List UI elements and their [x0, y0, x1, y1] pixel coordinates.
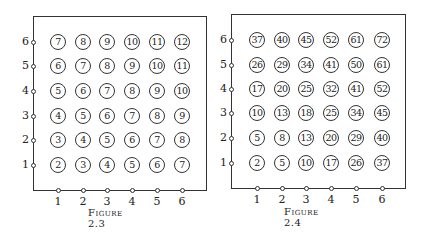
circled-value: 5	[249, 130, 265, 146]
circled-value: 41	[348, 81, 364, 97]
x-axis-pin	[255, 186, 260, 191]
circled-value: 32	[323, 81, 339, 97]
circled-value: 5	[50, 83, 66, 99]
y-tick-label: 3	[22, 110, 29, 121]
circled-value: 5	[274, 155, 290, 171]
circled-value: 20	[323, 130, 339, 146]
y-axis-pin	[31, 114, 36, 119]
x-tick-label: 5	[154, 196, 161, 207]
y-tick-label: 6	[22, 36, 29, 47]
circled-value: 61	[374, 57, 390, 73]
circled-value: 25	[298, 81, 314, 97]
y-tick-label: 2	[22, 134, 29, 145]
circled-value: 17	[323, 155, 339, 171]
x-axis-pin	[304, 186, 309, 191]
y-axis-pin	[229, 136, 234, 141]
x-tick-label: 3	[104, 196, 111, 207]
circled-value: 7	[50, 34, 66, 50]
x-axis-pin	[130, 188, 135, 193]
circled-value: 2	[249, 155, 265, 171]
circled-value: 7	[75, 58, 91, 74]
x-axis-pin	[105, 188, 110, 193]
circled-value: 20	[274, 81, 290, 97]
circled-value: 10	[124, 34, 140, 50]
circled-value: 5	[75, 108, 91, 124]
circled-value: 40	[374, 130, 390, 146]
x-axis-pin	[81, 188, 86, 193]
y-tick-label: 5	[22, 60, 29, 71]
circled-value: 8	[174, 132, 190, 148]
circled-value: 5	[99, 132, 115, 148]
y-axis-pin	[31, 163, 36, 168]
circled-value: 37	[249, 32, 265, 48]
circled-value: 10	[298, 155, 314, 171]
circled-value: 11	[149, 34, 165, 50]
circled-value: 17	[249, 81, 265, 97]
circled-value: 9	[124, 58, 140, 74]
y-tick-label: 6	[220, 34, 227, 45]
circled-value: 10	[149, 58, 165, 74]
circled-value: 9	[99, 34, 115, 50]
y-tick-label: 5	[220, 59, 227, 70]
circled-value: 3	[50, 132, 66, 148]
y-axis-pin	[31, 40, 36, 45]
circled-value: 9	[174, 108, 190, 124]
circled-value: 34	[298, 57, 314, 73]
x-tick-label: 6	[379, 194, 386, 205]
y-tick-label: 2	[220, 132, 227, 143]
x-axis-pin	[380, 186, 385, 191]
circled-value: 12	[174, 34, 190, 50]
circled-value: 5	[124, 157, 140, 173]
circled-value: 7	[149, 132, 165, 148]
circled-value: 72	[374, 32, 390, 48]
x-tick-label: 2	[80, 196, 87, 207]
circled-value: 45	[374, 105, 390, 121]
x-tick-label: 4	[129, 196, 136, 207]
x-tick-label: 4	[328, 194, 335, 205]
circled-value: 6	[75, 83, 91, 99]
circled-value: 37	[374, 155, 390, 171]
circled-value: 52	[323, 32, 339, 48]
x-tick-label: 1	[254, 194, 261, 205]
circled-value: 6	[124, 132, 140, 148]
circled-value: 34	[348, 105, 364, 121]
circled-value: 11	[174, 58, 190, 74]
circled-value: 61	[348, 32, 364, 48]
circled-value: 26	[348, 155, 364, 171]
circled-value: 8	[75, 34, 91, 50]
circled-value: 29	[274, 57, 290, 73]
circled-value: 4	[75, 132, 91, 148]
y-axis-pin	[229, 111, 234, 116]
x-tick-label: 5	[353, 194, 360, 205]
y-tick-label: 4	[22, 85, 29, 96]
circled-value: 9	[149, 83, 165, 99]
circled-value: 18	[298, 105, 314, 121]
x-tick-label: 6	[179, 196, 186, 207]
circled-value: 45	[298, 32, 314, 48]
y-axis-pin	[229, 38, 234, 43]
circled-value: 41	[323, 57, 339, 73]
circled-value: 6	[50, 58, 66, 74]
y-axis-pin	[31, 89, 36, 94]
circled-value: 7	[99, 83, 115, 99]
circled-value: 8	[274, 130, 290, 146]
circled-value: 4	[50, 108, 66, 124]
circled-value: 2	[50, 157, 66, 173]
circled-value: 29	[348, 130, 364, 146]
circled-value: 25	[323, 105, 339, 121]
y-tick-label: 4	[220, 83, 227, 94]
y-tick-label: 1	[220, 157, 227, 168]
x-axis-pin	[329, 186, 334, 191]
circled-value: 13	[274, 105, 290, 121]
circled-value: 8	[149, 108, 165, 124]
circled-value: 8	[99, 58, 115, 74]
circled-value: 7	[174, 157, 190, 173]
y-axis-pin	[31, 138, 36, 143]
x-axis-pin	[56, 188, 61, 193]
x-axis-pin	[280, 186, 285, 191]
circled-value: 26	[249, 57, 265, 73]
x-tick-label: 3	[303, 194, 310, 205]
circled-value: 6	[99, 108, 115, 124]
circled-value: 52	[374, 81, 390, 97]
circled-value: 10	[174, 83, 190, 99]
